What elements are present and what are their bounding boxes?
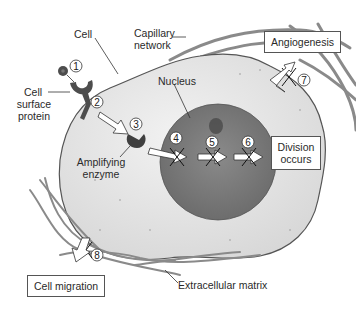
label-extracellular-matrix: Extracellular matrix [178, 279, 267, 291]
box-angiogenesis: Angiogenesis [264, 31, 341, 53]
label-enzyme-2: enzyme [74, 168, 128, 180]
box-division-occurs: Division occurs [271, 136, 321, 170]
step-2: 2 [94, 97, 100, 108]
step-4: 4 [173, 133, 179, 144]
label-surface-2: surface [14, 98, 54, 110]
step-5: 5 [209, 137, 215, 148]
label-enzyme-1: Amplifying [74, 156, 128, 168]
arrow-8 [72, 238, 90, 262]
label-nucleus: Nucleus [158, 75, 196, 87]
label-capillary-2: network [134, 39, 171, 51]
label-surface-1: Cell [18, 86, 48, 98]
division-line-2: occurs [276, 153, 316, 165]
step-1: 1 [73, 61, 79, 72]
division-line-1: Division [276, 141, 316, 153]
step-7: 7 [301, 75, 307, 86]
label-capillary-1: Capillary [134, 27, 175, 39]
cell-pointer [95, 38, 118, 74]
label-cell: Cell [74, 28, 92, 40]
nucleolus [209, 118, 223, 134]
step-6: 6 [245, 137, 251, 148]
label-surface-3: protein [14, 110, 54, 122]
step-8: 8 [94, 250, 100, 261]
box-cell-migration: Cell migration [27, 275, 105, 297]
step-3: 3 [133, 119, 139, 130]
